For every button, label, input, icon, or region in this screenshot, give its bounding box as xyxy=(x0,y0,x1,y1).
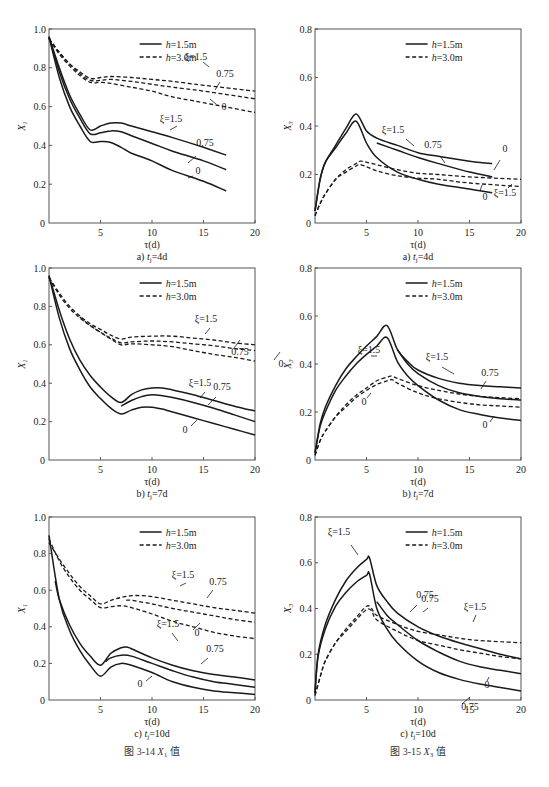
legend-solid-label: h=1.5m xyxy=(432,278,463,289)
curve-annotation: ξ=1.5 xyxy=(189,377,212,389)
x-tick-label: 5 xyxy=(364,227,369,238)
series-h-3.0m-1.5 xyxy=(49,39,255,91)
legend-solid-label: h=1.5m xyxy=(166,527,197,538)
y-tick-label: 0.4 xyxy=(34,378,47,389)
x-tick-label: 5 xyxy=(364,464,369,475)
y-axis-label: X1 xyxy=(16,359,29,370)
y-tick-label: 0 xyxy=(306,695,311,706)
x-tick-label: 20 xyxy=(516,704,526,715)
y-tick-label: 0.2 xyxy=(34,416,47,427)
curve-annotation: 0.75 xyxy=(424,139,442,150)
curve-annotation: 0 xyxy=(483,191,488,202)
annotation-leader xyxy=(146,676,152,681)
annotation-leader xyxy=(406,139,414,146)
series-h-3.0m-0 xyxy=(49,278,255,362)
y-tick-label: 0.4 xyxy=(300,359,313,370)
y-axis-label: X3 xyxy=(282,121,295,132)
x-tick-label: 10 xyxy=(147,704,157,715)
y-tick-label: 0 xyxy=(306,218,311,229)
y-tick-label: 0.2 xyxy=(300,407,313,418)
chart-panel-3-14-c: 051015200.20.40.60.81.0X1τ(d)c) tj=10dh=… xyxy=(16,512,260,742)
y-tick-label: 0.8 xyxy=(300,24,313,35)
y-tick-label: 0.2 xyxy=(34,179,47,190)
curve-annotation: 0.75 xyxy=(209,576,227,587)
y-axis-label: X3 xyxy=(282,359,295,370)
y-tick-label: 0.8 xyxy=(34,301,47,312)
x-tick-label: 10 xyxy=(413,227,423,238)
y-tick-label: 0.6 xyxy=(34,101,47,112)
series-h-3.0m-0 xyxy=(49,539,255,639)
chart-panel-3-14-b: 051015200.20.40.60.81.0X1τ(d)b) tj=7dh=1… xyxy=(16,263,284,502)
annotation-leader xyxy=(442,367,454,374)
curve-annotation: ξ=1.5 xyxy=(195,313,218,325)
x-tick-label: 20 xyxy=(516,464,526,475)
x-tick-label: 10 xyxy=(413,464,423,475)
annotation-leader xyxy=(207,590,213,598)
annotation-leader xyxy=(210,99,216,104)
y-tick-label: 0.6 xyxy=(34,585,47,596)
plot-frame xyxy=(315,517,521,700)
x-tick-label: 5 xyxy=(98,227,103,238)
annotation-leader xyxy=(180,583,186,586)
series-h-1.5m-0 xyxy=(49,535,255,694)
y-axis-label: X1 xyxy=(16,604,29,615)
panel-caption: c) tj=10d xyxy=(400,728,436,741)
y-tick-label: 1.0 xyxy=(34,512,47,523)
chart-panel-3-14-a: 051015200.20.40.60.81.0X1τ(d)a) tj=4dh=1… xyxy=(16,24,260,265)
y-tick-label: 0.2 xyxy=(34,658,47,669)
x-tick-label: 5 xyxy=(364,704,369,715)
curve-annotation: 0.75 xyxy=(206,643,224,654)
y-tick-label: 0.6 xyxy=(300,311,313,322)
chart-panel-3-15-a: 051015200.20.40.60.8X3τ(d)a) tj=4dh=1.5m… xyxy=(282,24,526,265)
y-tick-label: 0.2 xyxy=(300,649,313,660)
y-tick-label: 1.0 xyxy=(34,24,47,35)
annotation-leader xyxy=(203,62,209,67)
curve-annotation: ξ=1.5 xyxy=(426,351,449,363)
annotation-leader xyxy=(410,605,417,612)
x-tick-label: 5 xyxy=(98,464,103,475)
curve-annotation: ξ=1.5 xyxy=(382,124,405,136)
curve-annotation: ξ=1.5 xyxy=(358,344,381,356)
x-tick-label: 20 xyxy=(250,704,260,715)
y-tick-label: 0.6 xyxy=(300,72,313,83)
x-tick-label: 15 xyxy=(465,464,475,475)
curve-annotation: ξ=1.5 xyxy=(157,618,180,630)
annotation-leader xyxy=(201,658,208,664)
plot-frame xyxy=(49,268,255,460)
y-tick-label: 0 xyxy=(40,218,45,229)
series-h-1.5m-0.75 xyxy=(377,602,521,674)
legend-dashed-label: h=3.0m xyxy=(432,52,463,63)
curve-annotation: 0 xyxy=(503,143,508,154)
annotation-leader xyxy=(481,381,486,389)
x-tick-label: 10 xyxy=(147,227,157,238)
figure-canvas: 051015200.20.40.60.81.0X1τ(d)a) tj=4dh=1… xyxy=(0,0,549,787)
legend-dashed-label: h=3.0m xyxy=(432,540,463,551)
series-h-1.5m-0.75 xyxy=(121,395,255,422)
panel-caption: a) tj=4d xyxy=(137,251,168,264)
x-tick-label: 20 xyxy=(250,464,260,475)
curve-annotation: ξ=1.5 xyxy=(172,569,195,581)
x-tick-label: 20 xyxy=(516,227,526,238)
curve-annotation: 0.75 xyxy=(461,701,479,712)
curve-annotation: 0 xyxy=(138,678,143,689)
curve-annotation: 0.75 xyxy=(196,137,214,148)
x-tick-label: 15 xyxy=(465,227,475,238)
series-h-3.0m-0 xyxy=(315,379,521,455)
series-h-3.0m-0 xyxy=(315,164,521,215)
annotation-leader xyxy=(191,420,197,426)
y-tick-label: 1.0 xyxy=(34,263,47,274)
curve-annotation: 0 xyxy=(485,679,490,690)
y-tick-label: 0 xyxy=(40,695,45,706)
panel-caption: c) tj=10d xyxy=(134,728,170,741)
curve-annotation: 0 xyxy=(362,396,367,407)
x-axis-label: τ(d) xyxy=(144,716,160,728)
x-tick-label: 15 xyxy=(199,704,209,715)
y-tick-label: 0.8 xyxy=(34,62,47,73)
series-h-3.0m-1.5 xyxy=(315,606,521,696)
x-axis-label: τ(d) xyxy=(410,239,426,251)
y-tick-label: 0.6 xyxy=(300,557,313,568)
y-axis-label: X3 xyxy=(282,603,295,614)
series-h-3.0m-1.5 xyxy=(315,376,521,455)
curve-annotation: ξ=1.5 xyxy=(160,113,183,125)
figure-caption-fig-3-14: 图 3-14 X1 值 xyxy=(124,745,179,759)
